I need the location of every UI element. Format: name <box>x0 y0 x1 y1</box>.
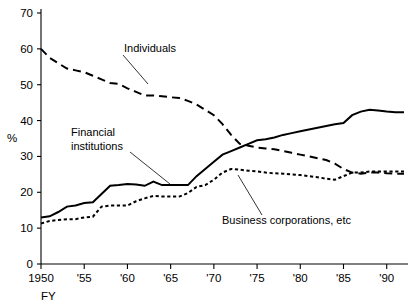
x-axis-title: FY <box>41 290 56 302</box>
x-tick-label: '75 <box>250 272 265 284</box>
annotation-leader-line <box>130 152 170 184</box>
y-tick-label: 50 <box>20 79 33 91</box>
y-tick-label: 70 <box>20 7 33 19</box>
y-tick-label: 10 <box>20 222 33 234</box>
series-annotation-label: institutions <box>71 140 123 152</box>
annotation-leader-line <box>238 175 262 215</box>
series-annotation-label: Individuals <box>124 42 176 54</box>
x-tick-label: '85 <box>336 272 351 284</box>
y-tick-label: 20 <box>20 186 33 198</box>
x-tick-label: '55 <box>77 272 92 284</box>
y-axis-title: % <box>7 132 17 144</box>
x-tick-label: '90 <box>379 272 394 284</box>
line-chart: 010203040506070 1950'55'60'65'70'75'80'8… <box>0 0 409 306</box>
series-annotation-label: Business corporations, etc <box>222 214 352 226</box>
x-tick-label: '60 <box>120 272 135 284</box>
y-axis-tick-labels: 010203040506070 <box>20 7 33 270</box>
x-tick-label: '70 <box>206 272 221 284</box>
series-annotations: IndividualsFinancialinstitutionsBusiness… <box>71 42 352 226</box>
y-tick-label: 0 <box>27 258 33 270</box>
annotation-leader-line <box>123 55 148 84</box>
x-tick-label: '65 <box>163 272 178 284</box>
axes-group <box>37 9 408 269</box>
chart-container: 010203040506070 1950'55'60'65'70'75'80'8… <box>0 0 409 306</box>
x-axis-tick-labels: 1950'55'60'65'70'75'80'85'90 <box>28 272 394 284</box>
y-tick-label: 30 <box>20 150 33 162</box>
series-annotation-label: Financial <box>71 126 115 138</box>
y-tick-label: 60 <box>20 43 33 55</box>
x-tick-label: '80 <box>293 272 308 284</box>
x-tick-label: 1950 <box>28 272 54 284</box>
y-tick-label: 40 <box>20 115 33 127</box>
